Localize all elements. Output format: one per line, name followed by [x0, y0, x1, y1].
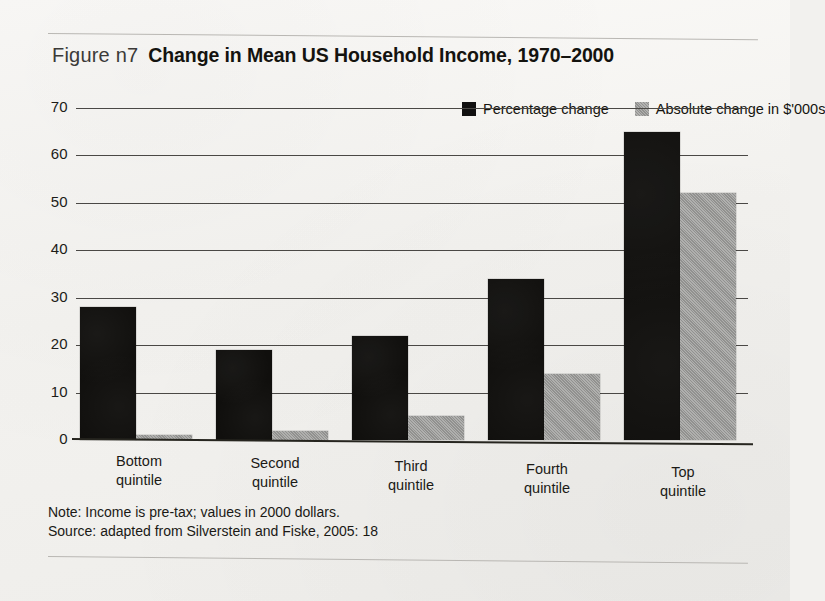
- y-axis-tick-label: 70: [51, 98, 68, 115]
- category-label-line1: Second: [216, 454, 334, 473]
- category-label-line2: quintile: [352, 476, 470, 495]
- category-label-line2: quintile: [80, 471, 198, 490]
- bar-absolute-change[interactable]: [544, 374, 600, 440]
- plot-area: 010203040506070: [76, 108, 748, 440]
- x-axis-category-label: Thirdquintile: [352, 457, 470, 498]
- top-divider-rule: [48, 33, 758, 40]
- x-axis-category-labels: BottomquintileSecondquintileThirdquintil…: [76, 452, 748, 498]
- bar-groups: [76, 108, 748, 440]
- page-title: Change in Mean US Household Income, 1970…: [148, 44, 614, 67]
- bar-absolute-change[interactable]: [408, 416, 464, 440]
- y-axis-tick-label: 50: [51, 193, 68, 210]
- figure-number-label: Figure n7: [52, 44, 138, 67]
- bar-absolute-change[interactable]: [680, 193, 736, 440]
- y-axis-tick-label: 20: [51, 336, 68, 353]
- y-axis-tick-label: 60: [51, 146, 68, 163]
- category-label-line1: Third: [352, 457, 470, 476]
- bar-group: [216, 108, 334, 440]
- bar-percentage-change[interactable]: [80, 307, 136, 440]
- y-axis-tick-label: 0: [59, 430, 68, 447]
- bar-group: [352, 108, 470, 440]
- x-axis-category-label: Bottomquintile: [80, 452, 198, 498]
- bar-percentage-change[interactable]: [488, 279, 544, 440]
- category-label-line1: Bottom: [80, 452, 198, 471]
- bottom-divider-rule: [48, 556, 748, 564]
- bar-group: [488, 108, 606, 440]
- bar-percentage-change[interactable]: [216, 350, 272, 440]
- figure-heading: Figure n7 Change in Mean US Household In…: [52, 44, 614, 67]
- category-label-line2: quintile: [216, 473, 334, 492]
- y-axis-tick-label: 10: [51, 383, 68, 400]
- x-axis-category-label: Secondquintile: [216, 454, 334, 498]
- bar-group: [624, 108, 742, 440]
- category-label-line2: quintile: [488, 479, 606, 498]
- y-axis-tick-label: 40: [51, 241, 68, 258]
- figure-notes: Note: Income is pre-tax; values in 2000 …: [48, 503, 378, 542]
- y-axis-tick-label: 30: [51, 288, 68, 305]
- source-line: Source: adapted from Silverstein and Fis…: [48, 522, 378, 541]
- category-label-line1: Top: [624, 463, 742, 482]
- bar-absolute-change[interactable]: [272, 431, 328, 440]
- note-line: Note: Income is pre-tax; values in 2000 …: [48, 503, 378, 522]
- bar-percentage-change[interactable]: [352, 336, 408, 440]
- x-axis-category-label: Fourthquintile: [488, 460, 606, 498]
- bar-group: [80, 108, 198, 440]
- category-label-line2: quintile: [624, 482, 742, 501]
- category-label-line1: Fourth: [488, 460, 606, 479]
- bar-percentage-change[interactable]: [624, 132, 680, 440]
- x-axis-category-label: Topquintile: [624, 463, 742, 498]
